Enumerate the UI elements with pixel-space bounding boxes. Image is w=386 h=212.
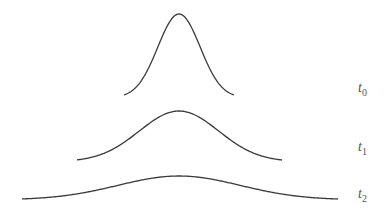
curve-t2 xyxy=(22,176,338,199)
label-t0: t0 xyxy=(358,80,367,98)
label-t2: t2 xyxy=(358,186,367,204)
label-t1: t1 xyxy=(358,139,367,157)
curve-t1 xyxy=(77,111,282,160)
curve-t0 xyxy=(124,14,234,95)
diagram-canvas xyxy=(0,0,386,212)
